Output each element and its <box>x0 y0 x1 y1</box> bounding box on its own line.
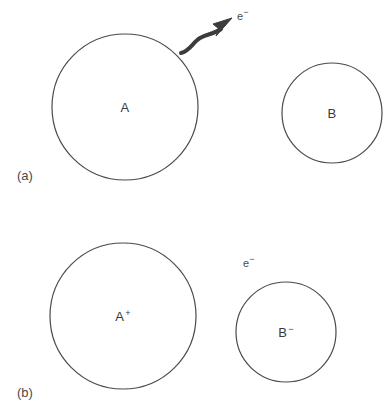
panel-tag-a: (a) <box>17 168 33 183</box>
panel-a: A B e− (a) <box>0 0 388 207</box>
electron-transfer-figure: A B e− (a) A+ B− e− (b) <box>0 0 388 414</box>
atom-symbol-a-plus: A <box>115 309 124 324</box>
electron-label-panel-a: e− <box>237 10 248 22</box>
electron-charge-b: − <box>249 254 254 264</box>
electron-label-panel-b: e− <box>243 257 254 269</box>
atom-symbol-a: A <box>121 100 130 115</box>
atom-charge-b-minus: − <box>287 323 294 333</box>
panel-a-graphics <box>0 0 388 207</box>
atom-charge-a-plus: + <box>124 307 131 317</box>
atom-label-b-minus: B− <box>278 325 294 340</box>
atom-symbol-b: B <box>328 106 337 121</box>
electron-charge-a: − <box>243 7 248 17</box>
panel-b-graphics <box>0 207 388 414</box>
panel-tag-b: (b) <box>17 385 33 400</box>
electron-transfer-arrow <box>181 29 221 53</box>
atom-label-a: A <box>121 100 130 115</box>
atom-label-b: B <box>328 106 337 121</box>
panel-b: A+ B− e− (b) <box>0 207 388 414</box>
atom-label-a-plus: A+ <box>115 309 131 324</box>
atom-symbol-b-minus: B <box>278 325 287 340</box>
